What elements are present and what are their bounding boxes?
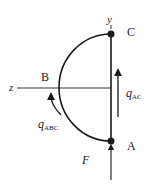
point-b-label: B [41,70,49,84]
axis-y-label: y [106,13,112,25]
q-ac-label: qAC [126,86,142,101]
q-abc-label: qABC [38,117,59,132]
force-f-label: F [81,153,90,167]
q-abc-subscript: ABC [44,124,59,132]
point-c-dot [108,31,115,38]
point-a-dot [108,138,115,145]
point-c-label: C [127,25,135,39]
point-a-label: A [127,139,136,153]
semicircle-abc [59,34,111,141]
q-ac-subscript: AC [132,93,142,101]
axis-z-label: z [8,81,14,93]
shear-flow-diagram: y C B z A F qAC qABC [0,0,150,189]
